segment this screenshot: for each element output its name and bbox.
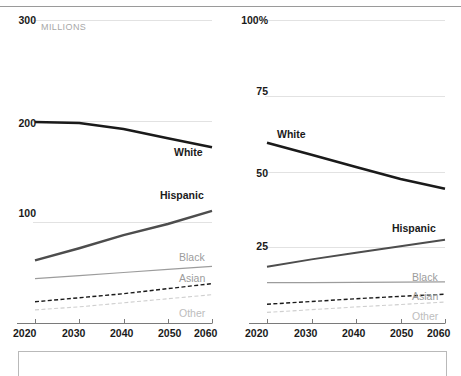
right-label-white: White xyxy=(277,128,306,140)
right-label-hispanic: Hispanic xyxy=(392,222,436,234)
left-x-axis xyxy=(17,319,213,324)
series-line-white xyxy=(35,122,212,147)
left-xtick-2050: 2050 xyxy=(158,327,181,339)
right-xtick-2040: 2040 xyxy=(342,327,365,339)
left-unit-label: MILLIONS xyxy=(41,22,86,32)
left-label-white: White xyxy=(174,146,203,158)
left-label-asian: Asian xyxy=(179,272,205,284)
left-label-hispanic: Hispanic xyxy=(160,189,204,201)
series-line-white xyxy=(267,143,445,189)
left-xtick-2060: 2060 xyxy=(194,327,217,339)
left-label-other: Other xyxy=(179,307,205,319)
right-xtick-2030: 2030 xyxy=(294,327,317,339)
right-xtick-2060: 2060 xyxy=(427,327,450,339)
left-xtick-2030: 2030 xyxy=(62,327,85,339)
series-line-asian xyxy=(35,284,212,302)
left-xtick-2020: 2020 xyxy=(13,327,36,339)
left-ytick-300: 300 xyxy=(0,14,36,26)
right-ytick-25: 25 xyxy=(228,240,268,252)
left-ytick-200: 200 xyxy=(0,117,36,129)
right-ytick-50: 50 xyxy=(228,167,268,179)
series-line-hispanic xyxy=(267,240,445,267)
right-ytick-75: 75 xyxy=(228,85,268,97)
right-label-asian: Asian xyxy=(412,290,438,302)
bottom-box-outline xyxy=(18,351,447,376)
left-label-black: Black xyxy=(179,251,205,263)
right-label-black: Black xyxy=(412,271,438,283)
left-xtick-2040: 2040 xyxy=(110,327,133,339)
left-ytick-100: 100 xyxy=(0,207,36,219)
right-xtick-2050: 2050 xyxy=(390,327,413,339)
right-ytick-100: 100% xyxy=(228,14,268,26)
right-xtick-2020: 2020 xyxy=(245,327,268,339)
right-label-other: Other xyxy=(412,310,438,322)
